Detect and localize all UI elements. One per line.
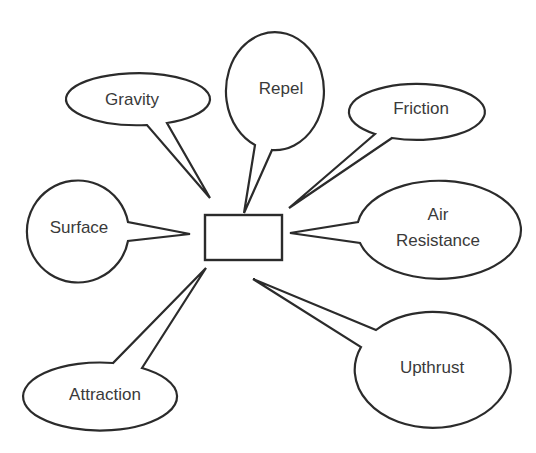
speech-bubble-shape [290, 181, 521, 279]
spider-diagram: Gravity Repel Friction Surface Air Resis… [0, 0, 536, 453]
bubble-air-resistance: Air Resistance [290, 181, 521, 279]
bubble-gravity: Gravity [66, 73, 210, 198]
bubble-label: Gravity [105, 90, 159, 109]
bubble-label: Upthrust [400, 358, 465, 377]
center-box [205, 215, 282, 260]
bubble-label: Surface [50, 218, 109, 237]
speech-bubble-shape [253, 279, 511, 428]
bubble-label: Friction [393, 99, 449, 118]
bubble-label: Attraction [69, 385, 141, 404]
bubble-surface: Surface [27, 181, 190, 283]
bubble-attraction: Attraction [23, 268, 206, 431]
bubble-label-line-1: Air [428, 205, 449, 224]
speech-bubble-shape [23, 268, 206, 431]
bubble-upthrust: Upthrust [253, 279, 511, 428]
speech-bubble-shape [226, 32, 324, 213]
bubble-label-line-2: Resistance [396, 231, 480, 250]
bubble-label: Repel [259, 79, 303, 98]
bubble-repel: Repel [226, 32, 324, 213]
